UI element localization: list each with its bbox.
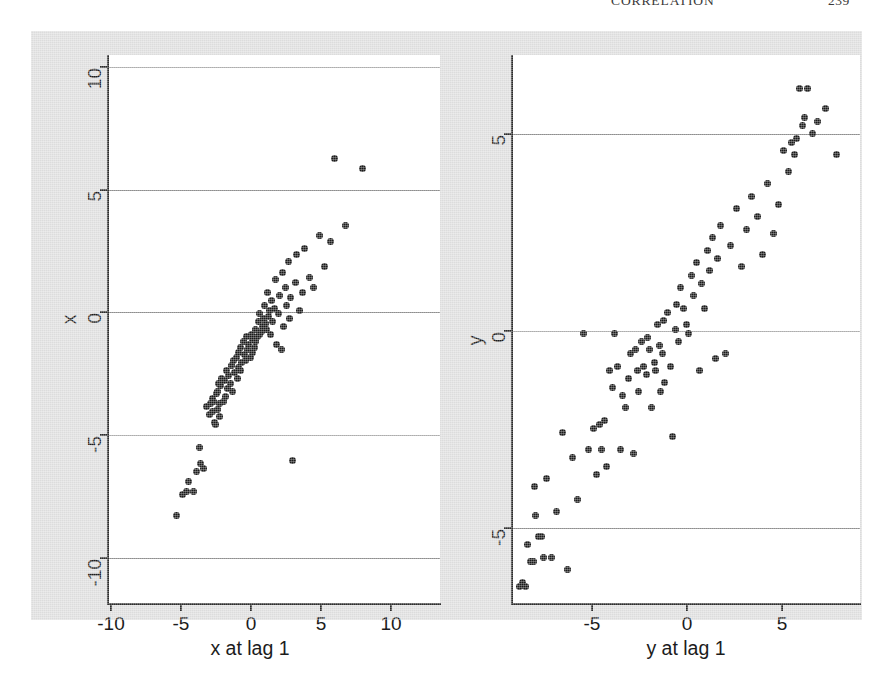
- data-point: [727, 242, 734, 249]
- figure-canvas: 10 5 0 -5 -10 x -10 -5 0 5 10 x at lag 1: [31, 31, 862, 620]
- data-point: [234, 375, 241, 382]
- data-point: [310, 284, 317, 291]
- data-point: [522, 583, 529, 590]
- x-tick-left-n5: [180, 604, 182, 611]
- data-point: [793, 135, 800, 142]
- data-point: [272, 276, 279, 283]
- data-point: [814, 118, 821, 125]
- data-point: [701, 305, 708, 312]
- x-ticklabel-left-5: 5: [300, 613, 342, 635]
- data-point: [648, 404, 655, 411]
- data-point: [593, 471, 600, 478]
- data-point: [183, 488, 190, 495]
- data-point: [548, 554, 555, 561]
- data-point: [292, 279, 299, 286]
- data-point: [283, 302, 290, 309]
- data-point: [559, 429, 566, 436]
- data-point: [657, 388, 664, 395]
- data-point: [625, 375, 632, 382]
- data-point: [540, 554, 547, 561]
- data-point: [553, 508, 560, 515]
- data-point: [712, 355, 719, 362]
- y-ticklabel-right-5: 5: [488, 135, 510, 175]
- x-tick-left-10: [390, 604, 392, 611]
- data-point: [193, 468, 200, 475]
- data-point: [764, 180, 771, 187]
- data-point: [654, 321, 661, 328]
- data-point: [630, 450, 637, 457]
- data-point: [327, 238, 334, 245]
- data-point: [635, 388, 642, 395]
- data-point: [574, 496, 581, 503]
- data-point: [212, 421, 219, 428]
- y-ticklabel-right-n5: -5: [488, 529, 510, 569]
- data-point: [714, 255, 721, 262]
- data-point: [791, 151, 798, 158]
- data-point: [267, 331, 274, 338]
- data-point: [585, 446, 592, 453]
- data-point: [690, 292, 697, 299]
- data-point: [659, 350, 666, 357]
- data-point: [227, 380, 234, 387]
- data-point: [643, 371, 650, 378]
- data-point: [532, 512, 539, 519]
- y-axis-line-right: [511, 55, 513, 604]
- x-ticklabel-left-0: 0: [230, 613, 272, 635]
- x-tick-right-n5: [591, 604, 593, 611]
- x-axis-title-left: x at lag 1: [190, 637, 310, 660]
- data-point: [646, 346, 653, 353]
- data-point: [264, 289, 271, 296]
- data-point: [622, 404, 629, 411]
- data-point: [237, 367, 244, 374]
- x-ticklabel-right-0: 0: [666, 613, 708, 635]
- data-point: [279, 269, 286, 276]
- data-point: [722, 350, 729, 357]
- data-point: [754, 213, 761, 220]
- data-point: [644, 334, 651, 341]
- data-point: [282, 284, 289, 291]
- y-ticklabel-left-n10: -10: [84, 559, 106, 599]
- y-ticklabel-left-10: 10: [84, 68, 106, 108]
- data-point: [275, 310, 282, 317]
- data-point: [296, 307, 303, 314]
- x-tick-left-0: [250, 604, 252, 611]
- data-point: [185, 478, 192, 485]
- data-point: [775, 201, 782, 208]
- data-point: [669, 433, 676, 440]
- data-point: [609, 384, 616, 391]
- data-point: [524, 541, 531, 548]
- y-axis-line-left: [107, 55, 109, 604]
- data-point: [809, 130, 816, 137]
- data-point: [359, 165, 366, 172]
- data-point: [598, 446, 605, 453]
- data-point: [748, 193, 755, 200]
- data-point: [538, 533, 545, 540]
- scatter-panel-y-at-lag-1: 5 0 -5 y -5 0 5 y at lag 1: [446, 31, 862, 620]
- data-point: [301, 245, 308, 252]
- data-point: [229, 388, 236, 395]
- data-point: [196, 444, 203, 451]
- data-point: [531, 483, 538, 490]
- data-point: [688, 272, 695, 279]
- data-point: [173, 512, 180, 519]
- data-point: [603, 463, 610, 470]
- x-tick-left-5: [320, 604, 322, 611]
- data-point: [342, 222, 349, 229]
- data-point: [580, 330, 587, 337]
- data-point: [717, 222, 724, 229]
- data-point: [770, 230, 777, 237]
- running-head-page-number: 239: [828, 0, 850, 9]
- data-point: [796, 85, 803, 92]
- data-point: [696, 367, 703, 374]
- data-point: [799, 122, 806, 129]
- data-point: [709, 234, 716, 241]
- data-point: [743, 226, 750, 233]
- x-ticklabel-left-n5: -5: [160, 613, 202, 635]
- data-point: [569, 454, 576, 461]
- data-points-left: [108, 55, 440, 603]
- x-ticklabel-right-n5: -5: [571, 613, 613, 635]
- data-point: [306, 274, 313, 281]
- data-point: [289, 457, 296, 464]
- data-point: [680, 305, 687, 312]
- data-point: [693, 259, 700, 266]
